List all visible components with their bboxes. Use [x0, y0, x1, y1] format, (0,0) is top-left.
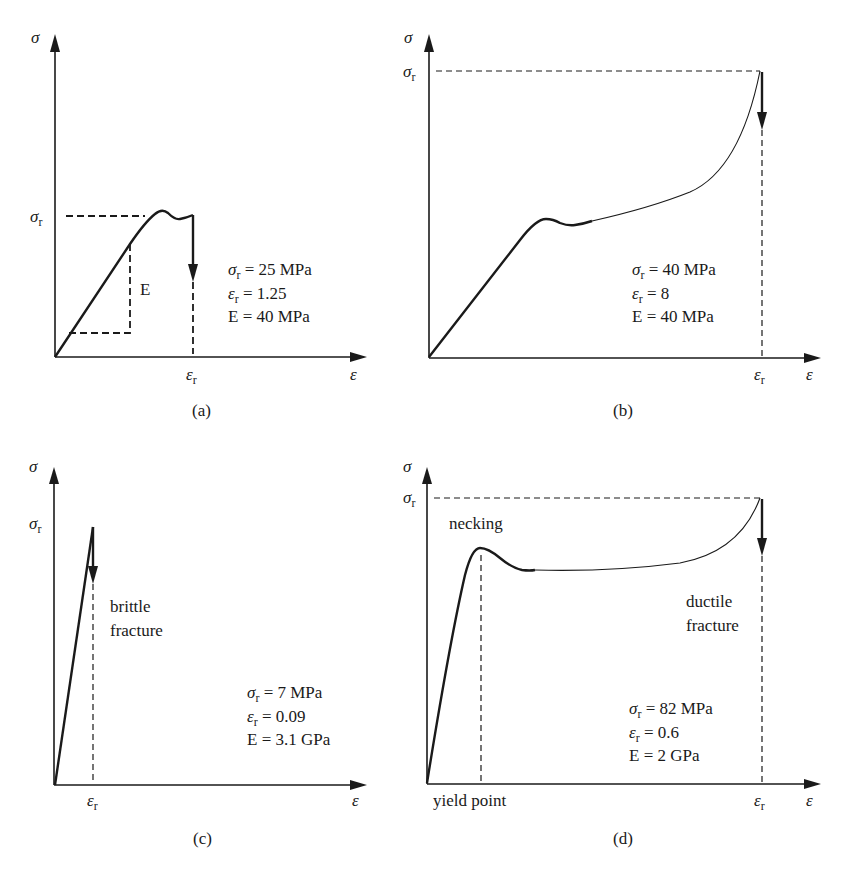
panel-caption: (d): [613, 829, 633, 848]
annotation-ductile: ductile: [686, 592, 732, 611]
x-axis-arrow-icon: [350, 780, 367, 790]
y-axis-label: σ: [29, 457, 38, 476]
arrow-down-icon: [188, 264, 198, 282]
eps-r-label: εr: [87, 791, 98, 813]
y-axis-arrow-icon: [424, 34, 434, 52]
property-eps-r: εr = 1.25: [228, 284, 287, 306]
y-axis-arrow-icon: [50, 34, 60, 52]
x-axis-arrow-icon: [804, 353, 821, 363]
annotation-fracture: fracture: [110, 621, 163, 640]
sigma-r-label: σr: [403, 62, 415, 84]
property-modulus: E = 2 GPa: [629, 746, 700, 765]
property-sigma-r: σr = 7 MPa: [247, 683, 323, 705]
annotation-fracture: fracture: [686, 616, 739, 635]
eps-r-label: εr: [754, 791, 765, 813]
panel-caption: (b): [613, 401, 633, 420]
panel-b: σ ε σr εr σr = 40 MPa εr = 8 E = 40 MPa …: [403, 28, 821, 420]
panel-d: σ ε σr necking yield point εr ductile fr…: [403, 457, 821, 848]
property-eps-r: εr = 8: [632, 284, 669, 306]
slope-label: E: [140, 280, 150, 299]
yield-point-label: yield point: [433, 791, 506, 810]
panel-a: σ ε σr E εr σr = 25 MPa εr = 1.25 E = 40…: [30, 28, 367, 420]
panel-caption: (a): [192, 401, 211, 420]
x-axis-label: ε: [350, 365, 357, 384]
property-sigma-r: σr = 40 MPa: [632, 260, 716, 282]
annotation-brittle: brittle: [110, 597, 151, 616]
eps-r-label: εr: [754, 365, 765, 387]
sigma-r-label: σr: [403, 488, 415, 510]
property-modulus: E = 40 MPa: [228, 307, 310, 326]
stress-strain-curve-elastic: [429, 219, 592, 357]
eps-r-label: εr: [186, 365, 197, 387]
property-eps-r: εr = 0.09: [247, 707, 306, 729]
y-axis-arrow-icon: [422, 467, 432, 484]
sigma-r-label: σr: [30, 207, 42, 229]
property-modulus: E = 40 MPa: [632, 307, 714, 326]
stress-strain-curve: [55, 211, 193, 357]
sigma-r-label: σr: [29, 514, 41, 536]
necking-label: necking: [449, 514, 503, 533]
figure-canvas: σ ε σr E εr σr = 25 MPa εr = 1.25 E = 40…: [0, 0, 853, 871]
panel-c: σ ε σr εr brittle fracture σr = 7 MPa εr…: [29, 457, 367, 848]
x-axis-arrow-icon: [804, 779, 821, 789]
property-sigma-r: σr = 82 MPa: [629, 699, 713, 721]
y-axis-label: σ: [403, 457, 412, 476]
y-axis-arrow-icon: [49, 467, 59, 484]
x-axis-label: ε: [352, 791, 359, 810]
arrow-down-icon: [757, 538, 767, 556]
property-eps-r: εr = 0.6: [629, 723, 679, 745]
x-axis-label: ε: [806, 365, 813, 384]
arrow-down-icon: [757, 112, 767, 130]
x-axis-arrow-icon: [350, 352, 367, 362]
stress-strain-curve-hardening: [592, 71, 760, 221]
stress-strain-curve: [55, 527, 93, 785]
x-axis-label: ε: [806, 791, 813, 810]
stress-strain-curve-hardening: [535, 498, 760, 570]
y-axis-label: σ: [404, 28, 413, 47]
property-sigma-r: σr = 25 MPa: [228, 260, 312, 282]
arrow-down-icon: [88, 566, 98, 584]
panel-caption: (c): [193, 829, 212, 848]
property-modulus: E = 3.1 GPa: [247, 730, 331, 749]
y-axis-label: σ: [31, 28, 40, 47]
